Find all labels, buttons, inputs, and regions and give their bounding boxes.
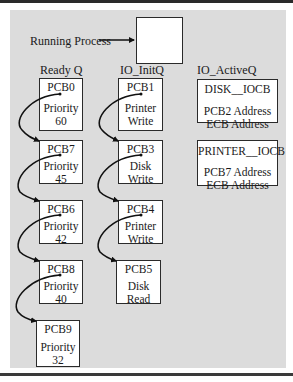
io-active-queue-header: IO_ActiveQ xyxy=(197,64,256,77)
pcb-box: PCB9 Priority 32 xyxy=(36,320,80,367)
pcb-line2: 32 xyxy=(37,354,79,367)
pcb-line2: 42 xyxy=(40,233,82,246)
pcb-id: PCB1 xyxy=(119,81,162,94)
bottom-rule xyxy=(0,373,293,376)
pcb-line2: 45 xyxy=(40,173,82,186)
io-init-queue-header: IO_InitQ xyxy=(120,64,164,77)
running-process-label: Running Process xyxy=(30,35,111,48)
pcb-line2: Write xyxy=(119,233,162,246)
running-process-box xyxy=(136,17,183,64)
iocb-line1: PCB2 Address xyxy=(198,105,277,118)
pcb-id: PCB6 xyxy=(40,203,82,216)
pcb-line1: Priority xyxy=(40,220,82,233)
pcb-box: PCB4 Printer Write xyxy=(118,200,163,244)
pcb-line2: 40 xyxy=(40,293,82,306)
top-rule xyxy=(0,0,293,3)
pcb-line2: 60 xyxy=(40,115,82,128)
pcb-box: PCB7 Priority 45 xyxy=(39,140,83,184)
pcb-box: PCB1 Printer Write xyxy=(118,78,163,131)
pcb-id: PCB4 xyxy=(119,203,162,216)
pcb-id: PCB0 xyxy=(40,81,82,94)
pcb-id: PCB8 xyxy=(40,263,82,276)
pcb-line1: Priority xyxy=(40,160,82,173)
pcb-id: PCB3 xyxy=(119,143,162,156)
pcb-box: PCB8 Priority 40 xyxy=(39,260,83,304)
pcb-line1: Disk xyxy=(117,280,160,293)
pcb-id: PCB9 xyxy=(37,323,79,336)
pcb-box: PCB6 Priority 42 xyxy=(39,200,83,244)
pcb-box: PCB5 Disk Read xyxy=(116,260,161,304)
pcb-box: PCB3 Disk Write xyxy=(118,140,163,184)
iocb-id: PRINTER__IOCB xyxy=(198,145,277,158)
iocb-box: PRINTER__IOCB PCB7 Address ECB Address xyxy=(197,140,278,186)
pcb-box: PCB0 Priority 60 xyxy=(39,78,83,131)
iocb-line1: PCB7 Address xyxy=(198,166,277,179)
iocb-line2: ECB Address xyxy=(198,179,277,192)
pcb-line2: Read xyxy=(117,293,160,306)
iocb-box: DISK__IOCB PCB2 Address ECB Address xyxy=(197,79,278,123)
pcb-line1: Priority xyxy=(40,102,82,115)
pcb-line1: Priority xyxy=(40,280,82,293)
pcb-id: PCB7 xyxy=(40,143,82,156)
pcb-line1: Disk xyxy=(119,160,162,173)
pcb-line2: Write xyxy=(119,115,162,128)
iocb-id: DISK__IOCB xyxy=(198,83,277,96)
pcb-line1: Priority xyxy=(37,341,79,354)
pcb-line1: Printer xyxy=(119,220,162,233)
pcb-line2: Write xyxy=(119,173,162,186)
pcb-line1: Printer xyxy=(119,102,162,115)
pcb-id: PCB5 xyxy=(117,263,160,276)
iocb-line2: ECB Address xyxy=(198,118,277,131)
ready-queue-header: Ready Q xyxy=(40,64,82,77)
